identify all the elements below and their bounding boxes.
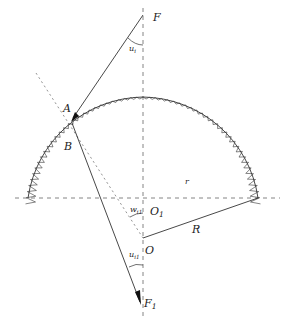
label-B: B — [64, 141, 72, 152]
label-O1-main: O — [150, 205, 159, 218]
normal-line — [36, 73, 143, 238]
label-O: O — [145, 245, 154, 256]
label-w-main: w — [130, 205, 137, 214]
label-w-sub: i1 — [137, 209, 142, 215]
force-diagram: F ui A B r wi1 O1 R O ui1 F1 — [0, 0, 291, 331]
diagram-canvas — [0, 0, 291, 331]
label-u-i1: ui1 — [129, 251, 140, 261]
angle-arc-ui1 — [129, 264, 143, 267]
label-F: F — [153, 12, 161, 23]
label-F1: F1 — [144, 298, 157, 311]
label-u-i-sub: i — [134, 48, 136, 54]
label-w-i1: wi1 — [130, 206, 142, 216]
label-F1-sub: 1 — [152, 302, 157, 311]
label-O1-sub: 1 — [159, 210, 164, 219]
label-O1: O1 — [150, 206, 164, 219]
arrowhead-F1 — [135, 290, 141, 305]
label-R: R — [192, 224, 200, 235]
label-F1-main: F — [144, 297, 152, 310]
label-u-i: ui — [129, 45, 136, 55]
label-u-i1-sub: i1 — [134, 254, 139, 260]
label-r: r — [185, 178, 189, 186]
label-A: A — [63, 103, 71, 114]
